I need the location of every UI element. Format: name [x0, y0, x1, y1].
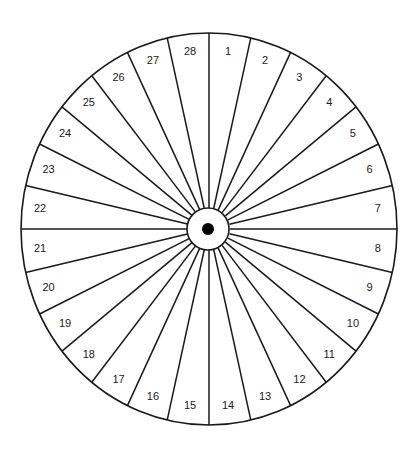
segment-label-13: 13 — [259, 390, 271, 402]
segment-label-20: 20 — [42, 281, 54, 293]
segment-label-14: 14 — [222, 399, 234, 411]
segment-label-17: 17 — [112, 373, 124, 385]
segment-label-21: 21 — [34, 242, 46, 254]
spoke — [218, 52, 291, 210]
spoke — [228, 144, 379, 220]
segment-label-4: 4 — [326, 96, 332, 108]
segment-label-1: 1 — [225, 45, 231, 57]
segment-label-6: 6 — [366, 163, 372, 175]
spoke — [40, 238, 191, 314]
spoke — [40, 144, 191, 220]
segment-label-26: 26 — [112, 71, 124, 83]
segment-label-7: 7 — [375, 202, 381, 214]
segment-label-3: 3 — [296, 71, 302, 83]
segment-label-24: 24 — [59, 127, 71, 139]
segment-label-5: 5 — [350, 127, 356, 139]
segmented-wheel-diagram: 1234567891011121314151617181920212223242… — [0, 0, 419, 449]
segment-label-16: 16 — [147, 390, 159, 402]
segment-label-10: 10 — [347, 317, 359, 329]
segment-label-15: 15 — [184, 399, 196, 411]
segment-label-22: 22 — [34, 202, 46, 214]
segment-label-27: 27 — [147, 54, 159, 66]
segment-label-25: 25 — [83, 96, 95, 108]
segment-label-11: 11 — [323, 348, 334, 360]
segment-label-23: 23 — [42, 163, 54, 175]
segment-label-19: 19 — [59, 317, 71, 329]
segment-label-28: 28 — [184, 45, 196, 57]
segment-label-12: 12 — [293, 373, 305, 385]
center-dot — [202, 223, 214, 235]
segment-label-9: 9 — [366, 281, 372, 293]
spoke — [127, 52, 199, 210]
segment-label-18: 18 — [83, 348, 95, 360]
spoke — [228, 238, 379, 314]
segment-label-8: 8 — [375, 242, 381, 254]
segment-label-2: 2 — [262, 54, 268, 66]
spoke — [127, 248, 199, 406]
spoke — [218, 248, 291, 406]
